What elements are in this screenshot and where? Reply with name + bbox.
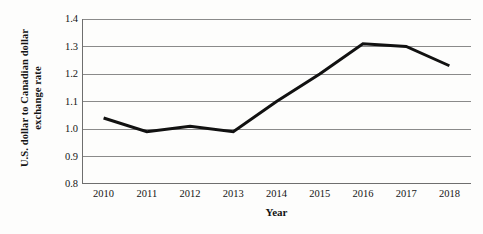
x-axis-tick-label: 2017: [396, 188, 417, 200]
x-axis-tick-label: 2012: [180, 188, 201, 200]
x-axis-tick-labels: 201020112012201320142015201620172018: [82, 188, 471, 206]
y-axis-tick-label: 1.1: [52, 97, 78, 107]
x-axis-tick-label: 2011: [137, 188, 158, 200]
x-axis-tick-label: 2013: [223, 188, 244, 200]
x-axis-tick-label: 2015: [309, 188, 330, 200]
x-axis-tick-label: 2018: [439, 188, 460, 200]
y-axis-label: U.S. dollar to Canadian dollar exchange …: [8, 8, 54, 188]
y-axis-label-line1: U.S. dollar to Canadian dollar: [19, 29, 30, 167]
x-axis-label: Year: [82, 206, 471, 218]
x-axis-tick-label: 2010: [93, 188, 114, 200]
x-axis-tick-label: 2016: [352, 188, 373, 200]
y-axis-tick-label: 0.9: [52, 152, 78, 162]
y-axis-tick-labels: 1.41.31.21.11.00.90.8: [50, 0, 78, 234]
y-axis-tick-label: 0.8: [52, 179, 78, 189]
y-axis-tick-label: 1.0: [52, 124, 78, 134]
y-axis-tick-label: 1.3: [52, 42, 78, 52]
y-axis-tick-label: 1.4: [52, 14, 78, 24]
exchange-rate-line-chart: U.S. dollar to Canadian dollar exchange …: [0, 0, 483, 234]
chart-svg: [82, 19, 471, 184]
y-axis-label-line2: exchange rate: [31, 29, 44, 167]
data-series-line: [104, 44, 450, 132]
plot-area: [82, 19, 471, 184]
y-axis-tick-label: 1.2: [52, 69, 78, 79]
x-axis-tick-label: 2014: [266, 188, 287, 200]
